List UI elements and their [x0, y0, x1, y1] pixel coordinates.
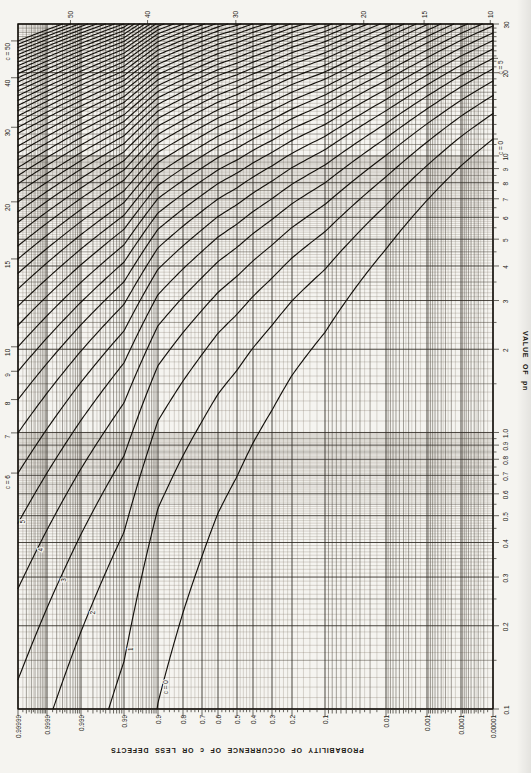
curve-label-top-c50: 50	[67, 10, 74, 18]
probability-tick-label-0.3: 0.3	[269, 715, 276, 724]
curve-label-left-c10: 10	[5, 348, 12, 356]
curve-label-top-c30: 30	[232, 10, 239, 18]
curve-label-left-c15: 15	[5, 260, 12, 268]
curve-label-left-c50: c = 50	[5, 42, 12, 60]
probability-tick-label-0.7: 0.7	[199, 715, 206, 724]
pn-tick-label-0.8: 0.8	[503, 455, 510, 464]
probability-tick-label-0.9999: 0.9999	[44, 715, 51, 735]
probability-axis-title: PROBABILITY OF OCCURRENCE OF c OR LESS D…	[0, 747, 474, 754]
probability-tick-label-0.9: 0.9	[155, 715, 162, 724]
pn-tick-label-0.3: 0.3	[503, 573, 510, 582]
curve-label-left-c30: 30	[5, 129, 12, 137]
curve-label-left-c8: 8	[5, 401, 12, 405]
curve-label-right-c0: c = 0	[498, 141, 505, 155]
pn-tick-label-1.0: 1.0	[503, 429, 510, 438]
probability-tick-label-0.00001: 0.00001	[490, 715, 497, 739]
probability-tick-label-0.001: 0.001	[424, 715, 431, 731]
pn-tick-label-30: 30	[503, 21, 510, 29]
curve-label-inline-c5: 5	[19, 519, 26, 523]
curve-label-left-c6: c = 6	[5, 475, 12, 489]
pn-tick-label-0.6: 0.6	[503, 490, 510, 499]
probability-tick-label-0.1: 0.1	[322, 715, 329, 724]
pn-tick-label-0.4: 0.4	[503, 539, 510, 548]
curve-label-inline-c3: 3	[60, 578, 67, 582]
pn-tick-label-5: 5	[503, 238, 510, 242]
pn-tick-label-8: 8	[503, 182, 510, 186]
probability-tick-label-0.999: 0.999	[78, 715, 85, 731]
probability-tick-label-0.01: 0.01	[383, 715, 390, 728]
pn-tick-label-0.7: 0.7	[503, 471, 510, 480]
pn-tick-label-4: 4	[503, 265, 510, 269]
pn-axis-title: VALUE OF pn	[522, 331, 529, 421]
probability-tick-label-0.2: 0.2	[289, 715, 296, 724]
curve-label-right-c5: c = 5	[498, 60, 505, 74]
curve-label-left-c40: 40	[5, 79, 12, 87]
scanned-chart-page: 0.999990.99990.9990.990.90.80.70.60.50.4…	[0, 0, 531, 773]
pn-tick-label-6: 6	[503, 216, 510, 220]
probability-tick-label-0.6: 0.6	[215, 715, 222, 724]
probability-tick-label-0.0001: 0.0001	[458, 715, 465, 735]
curve-label-top-c10: 10	[487, 10, 494, 18]
curve-label-top-c40: 40	[144, 10, 151, 18]
curve-label-left-c20: 20	[5, 203, 12, 211]
pn-tick-label-0.5: 0.5	[503, 512, 510, 521]
curve-label-inline-c2: 2	[89, 610, 96, 614]
probability-tick-label-0.5: 0.5	[234, 715, 241, 724]
probability-tick-label-0.4: 0.4	[250, 715, 257, 724]
curve-label-inline-c1: 1	[127, 647, 134, 651]
curve-label-top-c20: 20	[360, 10, 367, 18]
curve-label-left-c9: 9	[5, 373, 12, 377]
curve-label-inline-c4: 4	[37, 547, 44, 551]
probability-tick-label-0.99: 0.99	[121, 715, 128, 728]
pn-tick-label-0.2: 0.2	[503, 622, 510, 631]
pn-tick-label-0.1: 0.1	[503, 705, 510, 714]
curve-label-inline-c0: c = 0	[162, 680, 169, 694]
pn-tick-label-0.9: 0.9	[503, 441, 510, 450]
pn-tick-label-3: 3	[503, 299, 510, 303]
curve-label-top-c15: 15	[421, 10, 428, 18]
probability-tick-label-0.8: 0.8	[180, 715, 187, 724]
probability-tick-label-0.99999: 0.99999	[15, 715, 22, 739]
pn-tick-label-9: 9	[503, 167, 510, 171]
pn-tick-label-7: 7	[503, 198, 510, 202]
thorndike-poisson-chart: 0.999990.99990.9990.990.90.80.70.60.50.4…	[0, 0, 531, 773]
pn-tick-label-2: 2	[503, 348, 510, 352]
curve-label-left-c7: 7	[5, 434, 12, 438]
